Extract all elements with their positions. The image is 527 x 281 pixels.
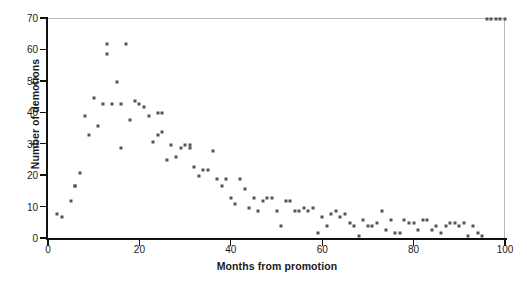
data-point bbox=[56, 212, 59, 215]
data-point bbox=[353, 225, 356, 228]
data-point bbox=[188, 146, 191, 149]
x-axis-tick-label: 40 bbox=[211, 244, 251, 255]
data-point bbox=[453, 222, 456, 225]
data-point bbox=[174, 156, 177, 159]
data-point bbox=[110, 102, 113, 105]
data-point bbox=[366, 225, 369, 228]
data-point bbox=[248, 206, 251, 209]
data-point bbox=[78, 172, 81, 175]
data-point bbox=[504, 18, 507, 21]
y-axis-tick-label: 30 bbox=[16, 138, 38, 149]
data-point bbox=[147, 115, 150, 118]
data-point bbox=[394, 231, 397, 234]
y-axis-tick-label: 40 bbox=[16, 107, 38, 118]
x-axis-tick-label: 60 bbox=[302, 244, 342, 255]
data-point bbox=[270, 197, 273, 200]
data-point bbox=[184, 143, 187, 146]
data-point bbox=[371, 225, 374, 228]
data-point bbox=[440, 231, 443, 234]
data-point bbox=[325, 225, 328, 228]
data-point bbox=[97, 124, 100, 127]
data-point bbox=[106, 52, 109, 55]
data-point bbox=[458, 225, 461, 228]
data-point bbox=[449, 222, 452, 225]
data-point bbox=[321, 216, 324, 219]
data-point bbox=[403, 219, 406, 222]
data-point bbox=[412, 222, 415, 225]
y-axis-tick bbox=[40, 237, 47, 238]
data-point bbox=[161, 131, 164, 134]
data-point bbox=[120, 146, 123, 149]
data-point bbox=[156, 112, 159, 115]
data-point bbox=[106, 43, 109, 46]
data-point bbox=[398, 231, 401, 234]
x-axis-title: Months from promotion bbox=[48, 260, 506, 272]
data-point bbox=[261, 200, 264, 203]
x-axis-tick-label: 20 bbox=[119, 244, 159, 255]
data-point bbox=[380, 209, 383, 212]
data-point bbox=[165, 159, 168, 162]
y-axis-tick bbox=[40, 206, 47, 207]
y-axis-tick bbox=[40, 174, 47, 175]
data-point bbox=[133, 99, 136, 102]
data-point bbox=[179, 146, 182, 149]
x-axis-tick-label: 100 bbox=[485, 244, 525, 255]
data-point bbox=[293, 209, 296, 212]
data-point bbox=[220, 184, 223, 187]
data-point bbox=[234, 203, 237, 206]
data-point bbox=[298, 209, 301, 212]
data-point bbox=[490, 18, 493, 21]
y-axis-tick-label: 20 bbox=[16, 170, 38, 181]
data-point bbox=[344, 212, 347, 215]
data-point bbox=[161, 112, 164, 115]
data-point bbox=[481, 234, 484, 237]
scatter-chart-figure: Number of demotions 010203040506070 0204… bbox=[0, 0, 527, 281]
data-point bbox=[302, 206, 305, 209]
data-point bbox=[435, 225, 438, 228]
data-point bbox=[334, 209, 337, 212]
data-point bbox=[376, 222, 379, 225]
y-axis-tick-label: 0 bbox=[16, 233, 38, 244]
data-point bbox=[206, 168, 209, 171]
data-point bbox=[312, 206, 315, 209]
data-point bbox=[430, 228, 433, 231]
data-point bbox=[92, 96, 95, 99]
data-point bbox=[476, 231, 479, 234]
data-point bbox=[60, 216, 63, 219]
data-point bbox=[426, 219, 429, 222]
data-point bbox=[225, 178, 228, 181]
data-point bbox=[417, 228, 420, 231]
y-axis-tick bbox=[40, 112, 47, 113]
data-point bbox=[389, 219, 392, 222]
data-point bbox=[229, 197, 232, 200]
data-point bbox=[284, 200, 287, 203]
data-point bbox=[252, 197, 255, 200]
x-axis-tick-label: 80 bbox=[394, 244, 434, 255]
data-point bbox=[115, 80, 118, 83]
data-point bbox=[101, 102, 104, 105]
data-point bbox=[69, 200, 72, 203]
data-point bbox=[385, 228, 388, 231]
data-point bbox=[307, 209, 310, 212]
data-point bbox=[357, 234, 360, 237]
y-axis-tick bbox=[40, 143, 47, 144]
data-point bbox=[266, 197, 269, 200]
data-point bbox=[170, 143, 173, 146]
data-point bbox=[216, 178, 219, 181]
data-point bbox=[467, 234, 470, 237]
data-point bbox=[142, 106, 145, 109]
x-axis-tick-label: 0 bbox=[28, 244, 68, 255]
data-point bbox=[362, 219, 365, 222]
data-point bbox=[129, 118, 132, 121]
data-point bbox=[120, 102, 123, 105]
data-point bbox=[202, 168, 205, 171]
data-point bbox=[444, 225, 447, 228]
data-point bbox=[197, 175, 200, 178]
data-point bbox=[316, 231, 319, 234]
data-point bbox=[88, 134, 91, 137]
plot-area bbox=[48, 18, 505, 238]
data-point bbox=[499, 18, 502, 21]
y-axis-tick bbox=[40, 49, 47, 50]
data-point bbox=[238, 178, 241, 181]
data-point bbox=[280, 225, 283, 228]
